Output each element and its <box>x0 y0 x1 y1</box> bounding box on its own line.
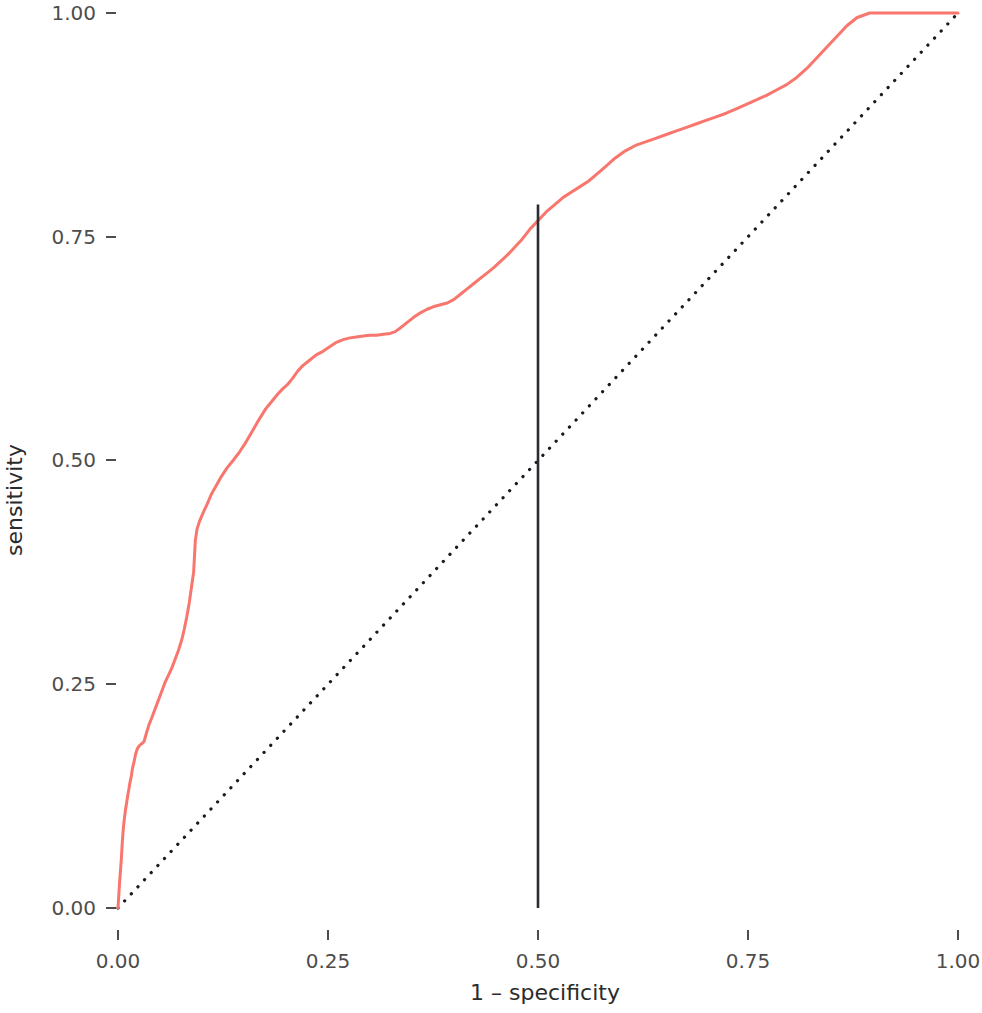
x-tick-label-100: 1.00 <box>936 949 981 973</box>
x-axis-tick-marks <box>118 930 958 940</box>
roc-plot-canvas: 1.00 0.75 0.50 0.25 0.00 0.00 0.25 0.50 … <box>0 0 982 1013</box>
x-axis-title: 1 – specificity <box>470 980 620 1005</box>
x-tick-label-075: 0.75 <box>726 949 771 973</box>
y-tick-label-050: 0.50 <box>51 448 96 472</box>
x-tick-label-050: 0.50 <box>516 949 561 973</box>
y-axis-tick-marks <box>106 13 116 908</box>
y-axis-tick-labels: 1.00 0.75 0.50 0.25 0.00 <box>51 1 96 920</box>
x-tick-label-000: 0.00 <box>96 949 141 973</box>
y-tick-label-075: 0.75 <box>51 225 96 249</box>
y-tick-label-000: 0.00 <box>51 896 96 920</box>
roc-chart-figure: 1.00 0.75 0.50 0.25 0.00 0.00 0.25 0.50 … <box>0 0 982 1013</box>
y-tick-label-025: 0.25 <box>51 672 96 696</box>
y-tick-label-100: 1.00 <box>51 1 96 25</box>
y-axis-title: sensitivity <box>2 444 27 556</box>
x-axis-tick-labels: 0.00 0.25 0.50 0.75 1.00 <box>96 949 981 973</box>
x-tick-label-025: 0.25 <box>306 949 351 973</box>
